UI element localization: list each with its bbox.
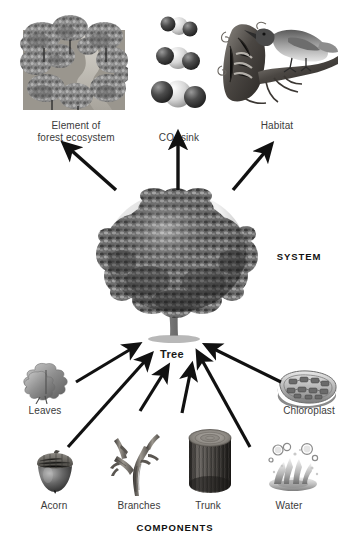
co2-sink-text: CO2 sink [159, 132, 199, 143]
arrow-tree-to-habitat [233, 152, 265, 190]
arrow-leaves-to-tree [76, 349, 131, 382]
diagram-canvas: Element of forest ecosystem CO2 sink Hab… [0, 0, 350, 544]
output-label-co2-sink: CO2 sink [146, 120, 212, 147]
arrow-chloroplast-to-tree [214, 349, 281, 382]
acorn-illustration [32, 448, 78, 496]
component-label-leaves: Leaves [15, 405, 75, 417]
chloroplast-illustration [274, 368, 340, 408]
component-label-branches: Branches [108, 500, 170, 512]
forest-canopy-aerial-illustration [20, 10, 128, 112]
component-label-trunk: Trunk [177, 500, 239, 512]
system-label: SYSTEM [268, 251, 330, 263]
arrow-trunk-to-tree [182, 374, 190, 413]
output-label-forest-ecosystem: Element of forest ecosystem [24, 120, 128, 143]
water-splash-illustration [262, 440, 324, 494]
bird-on-branch-illustration [214, 12, 340, 110]
carbon-dioxide-molecule-illustration [150, 12, 208, 110]
output-arrows [71, 143, 265, 190]
component-label-water: Water [258, 500, 320, 512]
broadleaf-tree-illustration [92, 188, 262, 348]
bare-branches-illustration [108, 432, 168, 496]
components-label: COMPONENTS [115, 522, 235, 534]
log-trunk-section-illustration [186, 428, 234, 494]
component-label-acorn: Acorn [23, 500, 85, 512]
component-label-chloroplast: Chloroplast [275, 405, 343, 417]
center-node-label: Tree [147, 349, 197, 361]
output-label-habitat: Habitat [240, 120, 314, 132]
arrow-branches-to-tree [140, 374, 163, 411]
oak-leaves-illustration [16, 360, 74, 404]
arrow-tree-to-forest-ecosystem [71, 150, 116, 190]
component-arrows [68, 349, 281, 447]
